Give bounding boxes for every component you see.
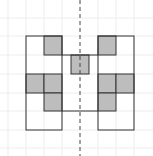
shaded-cell — [98, 74, 116, 93]
shaded-cell — [98, 93, 116, 111]
shaded-cell — [44, 36, 62, 55]
shaded-cell — [98, 36, 116, 55]
shaded-cell — [116, 74, 134, 93]
shaded-cell — [26, 74, 44, 93]
shaded-cell — [44, 93, 62, 111]
symmetry-diagram — [0, 0, 153, 156]
shaded-cell — [44, 74, 62, 93]
